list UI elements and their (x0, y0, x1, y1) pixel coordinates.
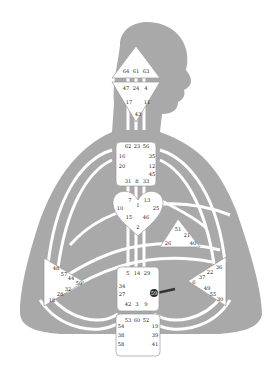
gate-57: 57 (61, 271, 68, 277)
gate-63: 63 (143, 68, 150, 74)
gate-45: 45 (149, 171, 156, 177)
gate-7: 7 (128, 197, 131, 203)
root-center[interactable]: 53 60 52 54 19 38 39 58 41 (116, 314, 160, 356)
gate-55: 55 (210, 291, 217, 297)
gate-62: 62 (125, 143, 132, 149)
gate-14: 14 (134, 270, 141, 276)
gate-21: 21 (184, 232, 191, 238)
gate-3: 3 (135, 301, 138, 307)
gate-10: 10 (117, 205, 124, 211)
gate-41: 41 (152, 341, 159, 347)
gate-28: 28 (57, 291, 64, 297)
gate-30: 30 (217, 296, 224, 302)
gate-9: 9 (144, 301, 147, 307)
gate-23: 23 (134, 143, 141, 149)
gate-11: 11 (144, 99, 151, 105)
gate-43: 43 (135, 111, 142, 117)
gate-15: 15 (126, 214, 133, 220)
gate-64: 64 (123, 68, 130, 74)
gate-37: 37 (199, 274, 206, 280)
gate-18: 18 (49, 297, 56, 303)
gate-6: 6 (192, 279, 195, 285)
gate-26: 26 (165, 240, 172, 246)
gate-33: 33 (143, 178, 150, 184)
gate-24: 24 (133, 85, 140, 91)
gate-22: 22 (207, 269, 214, 275)
gate-38: 38 (118, 332, 125, 338)
gate-42: 42 (125, 301, 132, 307)
gate-46: 46 (143, 214, 150, 220)
gate-13: 13 (144, 197, 151, 203)
gate-2: 2 (136, 224, 139, 230)
gate-39: 39 (152, 332, 159, 338)
gate-16: 16 (119, 153, 126, 159)
gate-20: 20 (119, 163, 126, 169)
bodygraph: 64 61 63 47 24 4 17 11 43 62 23 56 16 35… (0, 0, 273, 386)
sacral-center[interactable]: 5 14 29 34 27 59 42 3 9 (117, 267, 159, 311)
gate-40: 40 (190, 240, 197, 246)
gate-61: 61 (133, 68, 140, 74)
gate-58: 58 (118, 341, 125, 347)
gate-56: 56 (143, 143, 150, 149)
gate-1: 1 (136, 202, 139, 208)
gate-51: 51 (175, 226, 182, 232)
gate-44: 44 (68, 275, 75, 281)
gate-5: 5 (126, 270, 129, 276)
gate-32: 32 (65, 286, 72, 292)
gate-59: 59 (151, 290, 158, 296)
gate-27: 27 (119, 291, 126, 297)
gate-19: 19 (152, 323, 159, 329)
gate-34: 34 (119, 283, 126, 289)
gate-60: 60 (134, 317, 141, 323)
throat-center[interactable]: 62 23 56 16 35 20 12 45 31 8 33 (116, 142, 156, 186)
gate-31: 31 (125, 178, 132, 184)
gate-36: 36 (216, 264, 223, 270)
gate-53: 53 (125, 317, 132, 323)
gate-12: 12 (149, 163, 156, 169)
gate-25: 25 (153, 205, 160, 211)
gate-50: 50 (76, 280, 83, 286)
gate-52: 52 (143, 317, 150, 323)
gate-35: 35 (149, 153, 156, 159)
gate-54: 54 (118, 323, 125, 329)
gate-8: 8 (135, 178, 138, 184)
gate-17: 17 (126, 99, 133, 105)
gate-29: 29 (144, 270, 151, 276)
gate-47: 47 (123, 85, 130, 91)
gate-48: 48 (53, 265, 60, 271)
